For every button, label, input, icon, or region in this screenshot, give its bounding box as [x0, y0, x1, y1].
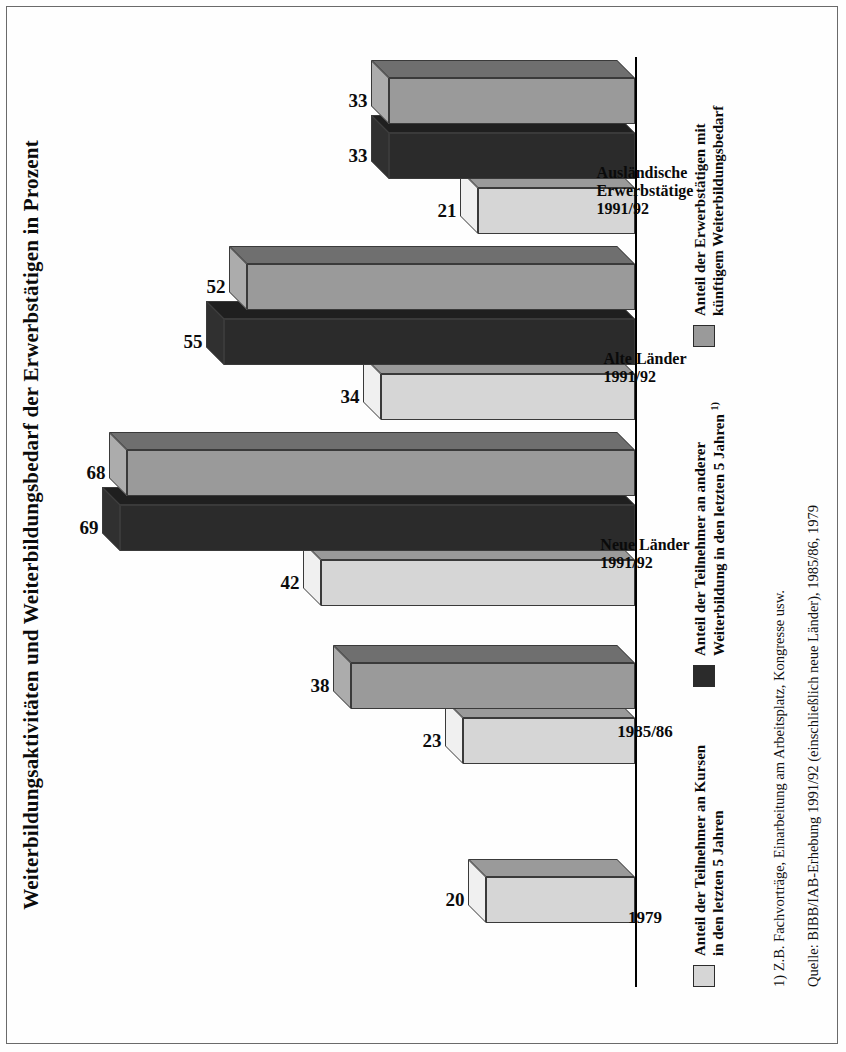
bar-alte-andere: 55	[224, 319, 635, 365]
bar-auslaend-bedarf-front-face	[389, 78, 635, 124]
bar-alte-kurse-front-face	[381, 374, 635, 420]
figure-frame: Weiterbildungsaktivitäten und Weiterbild…	[6, 6, 838, 1044]
chart-legend: Anteil der Teilnehmer an Kursenin den le…	[691, 57, 761, 987]
bar-alte-andere-value-label: 55	[184, 331, 203, 353]
bar-1985-kurse: 23	[463, 719, 635, 765]
bar-1985-bedarf-value-label: 38	[311, 676, 330, 698]
bar-alte-kurse-value-label: 34	[341, 386, 360, 408]
bar-alte-bedarf-value-label: 52	[206, 276, 225, 298]
bar-1985-kurse-front-face	[463, 719, 635, 765]
bar-alte-bedarf: 52	[247, 264, 635, 310]
bar-1979-kurse-front-face	[486, 877, 635, 923]
bar-neue-bedarf-side-face	[109, 432, 635, 450]
page-title: Weiterbildungsaktivitäten und Weiterbild…	[19, 5, 44, 1045]
bar-neue-andere-front-face	[120, 505, 635, 551]
bar-alte-bedarf-side-face	[229, 246, 635, 264]
bar-auslaend-bedarf-side-face	[371, 60, 635, 78]
bar-1979-kurse-side-face	[468, 859, 635, 877]
legend-item-1: Anteil der Teilnehmer an andererWeiterbi…	[691, 402, 728, 687]
cat-label-1985-86: 1985/86	[617, 722, 673, 741]
rotated-figure-canvas: Weiterbildungsaktivitäten und Weiterbild…	[5, 5, 839, 1045]
footnote-text: 1) Z.B. Fachvorträge, Einarbeitung am Ar…	[771, 590, 788, 987]
bar-neue-bedarf: 68	[127, 450, 635, 496]
legend-swatch-andere	[693, 665, 715, 687]
bar-neue-kurse: 42	[321, 560, 635, 606]
legend-label-2: Anteil der Erwerbstätigen mitkünftigem W…	[691, 106, 727, 316]
source-text: Quelle: BIBB/IAB-Erhebung 1991/92 (einsc…	[805, 505, 822, 987]
legend-label-1: Anteil der Teilnehmer an andererWeiterbi…	[691, 402, 728, 656]
legend-swatch-bedarf	[693, 325, 715, 347]
bar-1985-bedarf-front-face	[351, 664, 635, 710]
bar-alte-kurse: 34	[381, 374, 635, 420]
chart-plot-area: 20197923381985/86426968Neue Länder1991/9…	[77, 57, 637, 987]
bar-1979-kurse-value-label: 20	[445, 889, 464, 911]
legend-item-0: Anteil der Teilnehmer an Kursenin den le…	[691, 745, 727, 987]
cat-label-1979: 1979	[628, 908, 662, 927]
cat-label-auslaendische: AusländischeErwerbstätige1991/92	[597, 164, 694, 218]
bar-1985-bedarf: 38	[351, 664, 635, 710]
legend-label-0: Anteil der Teilnehmer an Kursenin den le…	[691, 745, 727, 956]
bar-1985-bedarf-side-face	[333, 646, 635, 664]
bar-1985-kurse-value-label: 23	[423, 731, 442, 753]
bar-auslaend-kurse-value-label: 21	[438, 200, 457, 222]
legend-swatch-kurse	[693, 965, 715, 987]
bar-alte-andere-front-face	[224, 319, 635, 365]
bar-neue-kurse-front-face	[321, 560, 635, 606]
bar-neue-andere: 69	[120, 505, 635, 551]
cat-label-alte-laender: Alte Länder1991/92	[603, 350, 686, 386]
cat-label-neue-laender: Neue Länder1991/92	[600, 536, 689, 572]
figure-page: Weiterbildungsaktivitäten und Weiterbild…	[0, 0, 846, 1052]
bar-1979-kurse: 20	[486, 877, 635, 923]
bar-alte-bedarf-front-face	[247, 264, 635, 310]
bar-neue-bedarf-value-label: 68	[87, 462, 106, 484]
bar-neue-bedarf-front-face	[127, 450, 635, 496]
bar-neue-kurse-value-label: 42	[281, 572, 300, 594]
bar-auslaend-bedarf-value-label: 33	[348, 90, 367, 112]
bar-neue-andere-value-label: 69	[79, 517, 98, 539]
legend-item-2: Anteil der Erwerbstätigen mitkünftigem W…	[691, 106, 727, 347]
bar-auslaend-andere-value-label: 33	[348, 145, 367, 167]
bar-auslaend-bedarf: 33	[389, 78, 635, 124]
